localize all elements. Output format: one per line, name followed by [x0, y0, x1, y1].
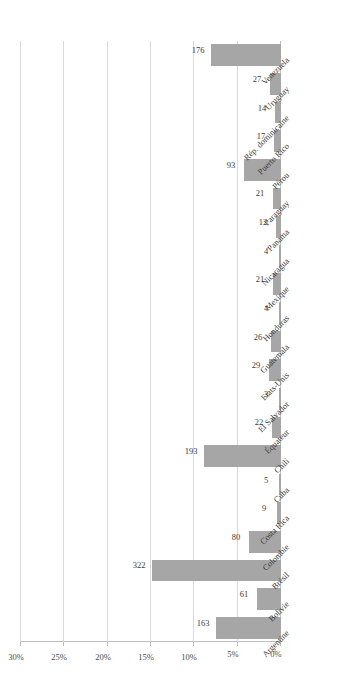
axis-tick — [20, 642, 21, 646]
rotated-chart-canvas: 0%5%10%15%20%25%30% 163Argentine61Bolivi… — [0, 0, 346, 676]
value-axis-tick-label: 20% — [95, 652, 111, 662]
plot-area: 0%5%10%15%20%25%30% 163Argentine61Bolivi… — [21, 41, 281, 642]
value-axis-tick-label: 25% — [52, 652, 68, 662]
bar-group: 5Cuba — [21, 470, 281, 499]
axis-tick — [150, 642, 151, 646]
bar-value-label: 5 — [264, 475, 268, 485]
bar-group: 4Honduras — [21, 299, 281, 328]
bar-value-label: 21 — [255, 188, 264, 198]
axis-tick — [193, 642, 194, 646]
bar-group: 21Mexique — [21, 270, 281, 299]
bar-group: 22Équateur — [21, 413, 281, 442]
bar-group: 3El Salvador — [21, 384, 281, 413]
bar-series: 163Argentine61Bolivie322Brésil80Colombie… — [21, 41, 281, 642]
bar-group: 163Argentine — [21, 613, 281, 642]
bar-group: 14Rép. dominicaine — [21, 98, 281, 127]
bar-group: 29Etats-Unis — [21, 356, 281, 385]
bar-group: 26Guatemala — [21, 327, 281, 356]
bar-group: 61Bolivie — [21, 585, 281, 614]
bar-group: 17Puerto Rico — [21, 127, 281, 156]
chart-page: 0%5%10%15%20%25%30% 163Argentine61Bolivi… — [0, 0, 346, 676]
axis-tick — [237, 642, 238, 646]
bar-group: 193Chili — [21, 442, 281, 471]
bar-group: 9Costa Rica — [21, 499, 281, 528]
bar-group: 21Paraguay — [21, 184, 281, 213]
bar-value-label: 193 — [184, 446, 197, 456]
bar-group: 93Pérou — [21, 156, 281, 185]
bar-value-label: 322 — [133, 560, 146, 570]
value-axis-tick-label: 5% — [227, 650, 238, 660]
bar-value-label: 61 — [239, 589, 248, 599]
bar-group: 80Colombie — [21, 528, 281, 557]
bar-value-label: 176 — [191, 45, 204, 55]
bar-value-label: 80 — [232, 532, 241, 542]
bar-group: 176Venezuela — [21, 41, 281, 70]
axis-tick — [107, 642, 108, 646]
category-label: Cuba — [271, 485, 291, 505]
bar-value-label: 163 — [196, 618, 209, 628]
bar-group: 27Uruguay — [21, 70, 281, 99]
value-axis-tick-label: 15% — [138, 652, 154, 662]
bar-group: 12Panama — [21, 213, 281, 242]
value-axis-tick-label: 30% — [8, 652, 24, 662]
bar-value-label: 9 — [262, 503, 266, 513]
axis-tick — [63, 642, 64, 646]
bar-value-label: 93 — [227, 160, 236, 170]
bar-group: 4Nicaragua — [21, 241, 281, 270]
value-axis-tick-label: 10% — [182, 652, 198, 662]
bar-group: 322Brésil — [21, 556, 281, 585]
bar — [211, 44, 281, 66]
